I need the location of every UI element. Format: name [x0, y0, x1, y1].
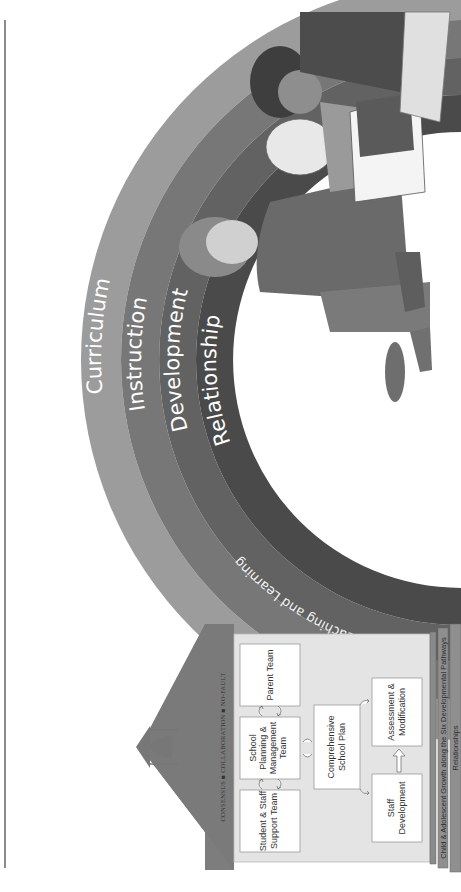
staff-development-box: Staff Development: [372, 774, 422, 842]
svg-text:School Plan: School Plan: [337, 723, 347, 771]
svg-text:School: School: [248, 734, 258, 762]
svg-text:Modification: Modification: [397, 688, 407, 736]
svg-text:Parent Team: Parent Team: [265, 650, 275, 701]
school-house: CONSENSUS ■ COLLABORATION ■ NO-FAULT Stu…: [136, 624, 461, 872]
school-planning-management-team-box: School Planning & Management Team: [240, 717, 300, 779]
rotated-figure: Curriculum Instruction Development Relat…: [0, 0, 461, 892]
svg-text:Development: Development: [397, 781, 407, 835]
svg-text:Management: Management: [268, 721, 278, 774]
svg-text:Staff: Staff: [386, 798, 396, 817]
relationships-foundation-bar: Relationships: [450, 624, 461, 872]
svg-text:Support Team: Support Team: [269, 793, 279, 849]
svg-text:Planning &: Planning &: [258, 726, 268, 770]
roof-values-text: CONSENSUS ■ COLLABORATION ■ NO-FAULT: [219, 672, 226, 821]
svg-text:Student & Staff: Student & Staff: [258, 790, 268, 851]
svg-text:Team: Team: [278, 737, 288, 759]
parent-team-box: Parent Team: [240, 644, 300, 706]
comprehensive-school-plan-box: Comprehensive School Plan: [314, 705, 360, 789]
svg-text:Comprehensive: Comprehensive: [326, 715, 336, 778]
svg-text:Relationships: Relationships: [451, 725, 460, 770]
growth-foundation-bar: Child & Adolescent Growth along the Six …: [438, 628, 448, 868]
student-staff-support-team-box: Student & Staff Support Team: [240, 790, 300, 852]
svg-text:Assessment &: Assessment &: [386, 683, 396, 741]
svg-text:Child & Adolescent Growth alon: Child & Adolescent Growth along the Six …: [439, 637, 448, 859]
assessment-modification-box: Assessment & Modification: [372, 678, 422, 746]
foundation-base: [430, 632, 436, 864]
